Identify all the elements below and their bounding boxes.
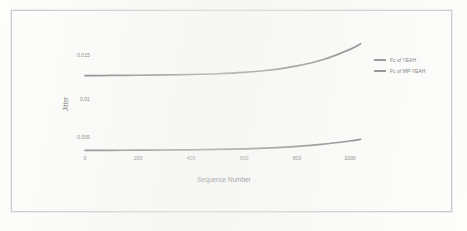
chart-svg: 0.015 0.01 0.005 Jitter 0 200 400 600 80… <box>0 0 467 231</box>
y-tick-label-2: 0.005 <box>77 134 90 140</box>
y-tick-label-0: 0.015 <box>77 52 90 58</box>
chart-legend: Fc of YEAH Fc of MP-YEAH <box>374 57 426 74</box>
x-tick-label-3: 600 <box>240 155 249 161</box>
legend-label-1: Fc of MP-YEAH <box>390 68 426 74</box>
x-tick-label-0: 0 <box>84 155 87 161</box>
legend-label-0: Fc of YEAH <box>390 57 416 63</box>
x-tick-label-5: 1000 <box>344 155 356 161</box>
chart-figure: 0.015 0.01 0.005 Jitter 0 200 400 600 80… <box>0 0 467 231</box>
y-axis-title: Jitter <box>62 96 69 111</box>
y-tick-label-1: 0.01 <box>80 96 90 102</box>
x-axis-title: Sequence Number <box>197 176 251 184</box>
series-line-fc-of-mp-yeah <box>85 139 361 150</box>
series-line-fc-of-yeah <box>85 44 361 76</box>
x-tick-label-1: 200 <box>134 155 143 161</box>
x-tick-label-4: 800 <box>293 155 302 161</box>
x-tick-label-2: 400 <box>187 155 196 161</box>
